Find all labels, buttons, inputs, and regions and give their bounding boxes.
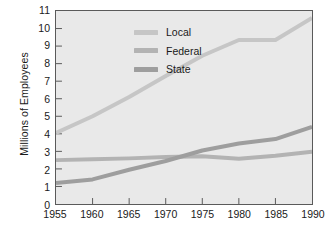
- legend-swatch-icon: [134, 30, 158, 35]
- y-tick-label: 6: [4, 94, 50, 105]
- y-tick-label: 1: [4, 182, 50, 193]
- legend-item-label: Federal: [166, 46, 202, 57]
- legend-item-local[interactable]: Local: [134, 27, 202, 38]
- legend-item-label: State: [166, 64, 191, 75]
- legend-item-label: Local: [166, 27, 191, 38]
- y-tick-label: 3: [4, 147, 50, 158]
- x-axis-tick-labels: 19551960196519701975198019851990: [0, 209, 333, 227]
- legend-swatch-icon: [134, 48, 158, 53]
- legend-swatch-icon: [134, 67, 158, 72]
- x-tick-label: 1960: [72, 209, 112, 220]
- y-tick-label: 11: [4, 5, 50, 16]
- plot-area: LocalFederalState: [55, 10, 313, 205]
- x-tick-label: 1990: [293, 209, 333, 220]
- legend-item-state[interactable]: State: [134, 64, 202, 75]
- x-tick-label: 1965: [109, 209, 149, 220]
- line-chart: Millions of Employees 01234567891011 Loc…: [0, 0, 333, 246]
- x-tick-label: 1980: [219, 209, 259, 220]
- y-tick-label: 7: [4, 76, 50, 87]
- x-tick-label: 1985: [256, 209, 296, 220]
- y-tick-label: 5: [4, 111, 50, 122]
- x-tick-label: 1970: [146, 209, 186, 220]
- legend: LocalFederalState: [134, 27, 202, 75]
- x-tick-label: 1975: [182, 209, 222, 220]
- y-tick-label: 10: [4, 23, 50, 34]
- y-tick-label: 8: [4, 58, 50, 69]
- legend-item-federal[interactable]: Federal: [134, 46, 202, 57]
- y-tick-label: 2: [4, 165, 50, 176]
- x-tick-label: 1955: [35, 209, 75, 220]
- y-tick-label: 9: [4, 40, 50, 51]
- y-tick-label: 4: [4, 129, 50, 140]
